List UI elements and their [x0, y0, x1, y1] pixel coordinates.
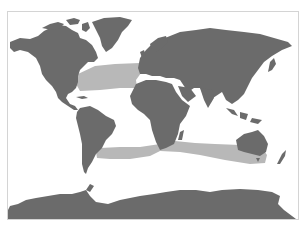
- map-canvas: [0, 0, 305, 226]
- world-map: [0, 0, 305, 226]
